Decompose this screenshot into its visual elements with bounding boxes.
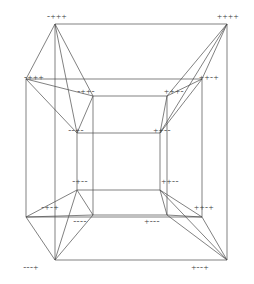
edge	[202, 217, 227, 260]
tesseract-figure: -+++ ++++ -+++ ++-+ -++- +++- --+- ++-- …	[0, 0, 254, 284]
vertex-label-inner-back-bot-right: +---	[144, 217, 160, 226]
inner-cube-back-face	[93, 96, 167, 215]
vertex-label-inner-back-top-left: -++-	[77, 87, 95, 96]
vertex-label-inner-front-bot-left: -+--	[72, 177, 88, 186]
outer-cube-connectors	[26, 24, 227, 260]
vertex-label-inner-front-bot-right: ++--	[161, 177, 179, 186]
vertex-label-inner-back-top-right: +++-	[164, 87, 184, 96]
outer-cube-front-face	[26, 79, 202, 217]
vertex-label-outer-back-top-left: -+++	[47, 12, 67, 21]
vertex-label-outer-back-bot-left: ---+	[23, 263, 39, 272]
inner-cube-front-face	[77, 133, 160, 190]
vertex-label-inner-front-top-right: ++--	[153, 126, 171, 135]
inner-cube-connectors	[77, 96, 167, 215]
edge	[167, 215, 227, 260]
vertex-label-inner-back-bot-left: ----	[73, 217, 87, 226]
vertex-label-outer-front-bot-left: -+-+	[41, 203, 59, 212]
vertex-label-outer-back-top-right: ++++	[217, 12, 239, 21]
tesseract-wireframe	[0, 0, 254, 284]
vertex-label-inner-front-top-left: --+-	[68, 126, 84, 135]
edge	[77, 190, 93, 215]
vertex-label-outer-front-top-left: -+++	[24, 73, 44, 82]
vertex-label-outer-front-bot-right: ++-+	[194, 203, 214, 212]
vertex-label-outer-back-bot-right: +--+	[191, 263, 209, 272]
vertex-label-outer-front-top-right: ++-+	[199, 73, 219, 82]
edge	[55, 24, 77, 133]
edge	[26, 217, 55, 260]
outer-to-inner-links	[26, 24, 227, 260]
edge	[160, 190, 227, 260]
